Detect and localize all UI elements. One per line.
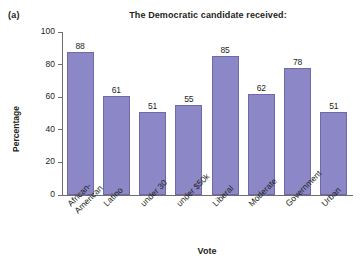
bar-value-label: 51 (148, 101, 157, 111)
y-tick-label: 100 (41, 26, 55, 37)
y-axis-ticks: Percentage 020406080100 (0, 32, 62, 196)
bar-value-label: 62 (257, 83, 266, 93)
bar-value-label: 88 (75, 41, 84, 51)
x-axis-tick-labels: African-AmericanLatinounder 30under $50k… (0, 196, 364, 252)
y-tick-label: 80 (46, 59, 55, 70)
y-tick-label: 20 (46, 156, 55, 167)
bar[interactable]: 85 (212, 56, 239, 195)
bar[interactable]: 61 (103, 96, 130, 195)
x-axis-label: Vote (62, 246, 352, 256)
y-tick-label: 40 (46, 124, 55, 135)
chart-title: The Democratic candidate received: (62, 10, 354, 20)
bar[interactable]: 88 (67, 52, 94, 195)
bar-value-label: 85 (220, 45, 229, 55)
bar[interactable]: 51 (320, 112, 347, 195)
bar-value-label: 55 (184, 94, 193, 104)
bar-value-label: 51 (329, 101, 338, 111)
plot-area: 8861515585627851 (62, 32, 352, 195)
bar-value-label: 61 (112, 85, 121, 95)
panel-label: (a) (8, 10, 20, 20)
y-tick-label: 60 (46, 91, 55, 102)
y-axis-label: Percentage (11, 89, 21, 169)
bar-value-label: 78 (293, 57, 302, 67)
